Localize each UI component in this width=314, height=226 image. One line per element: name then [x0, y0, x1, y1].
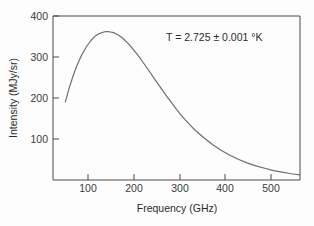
y-tick-label-100: 100 [30, 133, 48, 145]
y-axis-title: Intensity (MJy/sr) [7, 58, 19, 138]
y-tick-label-200: 200 [30, 92, 48, 104]
x-tick-label-200: 200 [125, 182, 143, 194]
blackbody-spectrum-chart: 400 300 200 100 100 200 300 400 500 Freq… [0, 0, 314, 226]
temperature-annotation: T = 2.725 ± 0.001 °K [166, 31, 262, 43]
y-tick-label-300: 300 [30, 51, 48, 63]
y-tick-label-400: 400 [30, 10, 48, 22]
x-tick-label-400: 400 [216, 182, 234, 194]
x-tick-label-100: 100 [79, 182, 97, 194]
x-axis-title: Frequency (GHz) [137, 202, 218, 214]
chart-figure: 400 300 200 100 100 200 300 400 500 Freq… [0, 0, 314, 226]
x-tick-label-500: 500 [262, 182, 280, 194]
x-tick-label-300: 300 [171, 182, 189, 194]
